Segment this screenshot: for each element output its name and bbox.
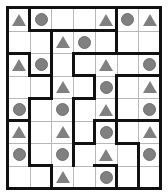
region-wall <box>72 74 97 77</box>
triangle-icon <box>56 81 70 93</box>
region-wall <box>50 164 53 190</box>
triangle-icon <box>56 36 70 48</box>
grid-cell[interactable] <box>138 166 161 190</box>
grid-cell[interactable] <box>117 121 140 145</box>
grid-cell[interactable] <box>117 76 140 100</box>
circle-icon <box>13 103 26 116</box>
circle-icon <box>121 13 134 26</box>
triangle-icon <box>12 14 26 26</box>
grid-cell[interactable] <box>138 121 161 145</box>
circle-icon <box>100 81 113 94</box>
grid-cell[interactable] <box>95 143 118 167</box>
region-wall <box>72 142 75 168</box>
grid-cell[interactable] <box>138 53 161 77</box>
grid-cell[interactable] <box>73 8 96 32</box>
grid-cell[interactable] <box>51 31 74 55</box>
triangle-icon <box>99 14 113 26</box>
circle-icon <box>143 103 156 116</box>
region-wall <box>72 97 97 100</box>
grid-cell[interactable] <box>117 53 140 77</box>
triangle-icon <box>12 59 26 71</box>
grid-cell[interactable] <box>73 31 96 55</box>
puzzle-board <box>8 8 160 188</box>
circle-icon <box>56 103 69 116</box>
region-wall <box>137 164 140 190</box>
grid-cell[interactable] <box>117 31 140 55</box>
region-wall <box>28 74 53 77</box>
grid-cell[interactable] <box>30 143 53 167</box>
triangle-icon <box>143 81 157 93</box>
grid-cell[interactable] <box>8 31 31 55</box>
grid-cell[interactable] <box>51 8 74 32</box>
grid-cell[interactable] <box>51 76 74 100</box>
triangle-icon <box>56 126 70 138</box>
grid-cell[interactable] <box>73 166 96 190</box>
region-wall <box>137 52 162 55</box>
grid-cell[interactable] <box>117 98 140 122</box>
triangle-icon <box>56 171 70 183</box>
region-wall <box>137 74 162 77</box>
region-wall <box>115 142 140 145</box>
circle-icon <box>13 148 26 161</box>
region-wall <box>137 119 162 122</box>
grid-cell[interactable] <box>117 8 140 32</box>
triangle-icon <box>143 126 157 138</box>
grid-cell[interactable] <box>138 8 161 32</box>
region-wall <box>115 164 118 190</box>
grid-cell[interactable] <box>51 166 74 190</box>
circle-icon <box>143 148 156 161</box>
region-wall <box>93 29 118 32</box>
grid-cell[interactable] <box>95 53 118 77</box>
grid-cell[interactable] <box>138 31 161 55</box>
region-wall <box>7 119 32 122</box>
circle-icon <box>35 58 48 71</box>
region-wall <box>7 52 32 55</box>
circle-icon <box>35 13 48 26</box>
grid-cell[interactable] <box>73 53 96 77</box>
grid-cell[interactable] <box>138 143 161 167</box>
circle-icon <box>100 171 113 184</box>
region-wall <box>28 164 53 167</box>
circle-icon <box>56 148 69 161</box>
circle-icon <box>143 58 156 71</box>
grid-cell[interactable] <box>138 98 161 122</box>
triangle-icon <box>12 126 26 138</box>
triangle-icon <box>99 59 113 71</box>
grid-cell[interactable] <box>8 166 31 190</box>
triangle-icon <box>99 149 113 161</box>
triangle-icon <box>143 14 157 26</box>
grid-cell[interactable] <box>73 143 96 167</box>
triangle-icon <box>99 104 113 116</box>
region-wall <box>28 97 53 100</box>
grid-cell[interactable] <box>138 76 161 100</box>
grid-cell[interactable] <box>30 121 53 145</box>
grid-cell[interactable] <box>30 98 53 122</box>
region-wall <box>72 142 97 145</box>
grid-cell[interactable] <box>73 98 96 122</box>
grid-cell[interactable] <box>30 8 53 32</box>
region-wall <box>93 164 118 167</box>
circle-icon <box>78 36 91 49</box>
grid-cell[interactable] <box>8 76 31 100</box>
circle-icon <box>100 126 113 139</box>
